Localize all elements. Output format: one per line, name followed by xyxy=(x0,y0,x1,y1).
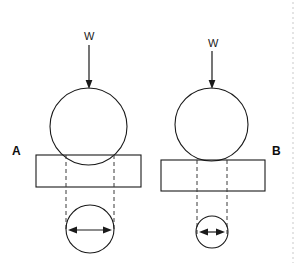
panel-a-dimension-head-left xyxy=(68,227,77,234)
panel-b-block xyxy=(161,160,265,191)
panel-b-sphere xyxy=(175,88,248,161)
figure-container: W W A B xyxy=(0,0,305,265)
panel-a-group xyxy=(36,45,141,253)
panel-a-contact-dimension-arrow xyxy=(68,227,112,234)
panel-b-load-arrow xyxy=(209,51,216,89)
panel-b-dimension-head-left xyxy=(199,229,208,236)
panel-a-load-label: W xyxy=(84,31,94,42)
panel-b-load-label: W xyxy=(208,38,218,49)
panel-b-label: B xyxy=(272,145,281,157)
panel-b-contact-dimension-arrow xyxy=(199,229,225,236)
panel-a-load-arrow xyxy=(86,45,93,89)
panel-a-dimension-head-right xyxy=(103,227,112,234)
panel-b-group xyxy=(161,51,265,248)
panel-a-label: A xyxy=(12,145,21,157)
diagram-canvas xyxy=(0,0,305,265)
panel-a-block xyxy=(36,155,141,187)
panel-a-sphere xyxy=(50,88,127,165)
panel-b-dimension-head-right xyxy=(216,229,225,236)
